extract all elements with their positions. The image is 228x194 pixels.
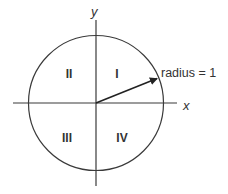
quadrant-IV-label: IV	[116, 131, 127, 145]
quadrant-I-label: I	[115, 67, 118, 81]
unit-circle-diagram: y x I II III IV radius = 1	[0, 0, 228, 194]
quadrant-III-label: III	[62, 131, 72, 145]
x-axis-label: x	[182, 98, 190, 113]
quadrant-II-label: II	[66, 67, 73, 81]
radius-label: radius = 1	[161, 66, 216, 80]
radius-arrow	[96, 79, 157, 104]
y-axis-label: y	[90, 4, 99, 19]
